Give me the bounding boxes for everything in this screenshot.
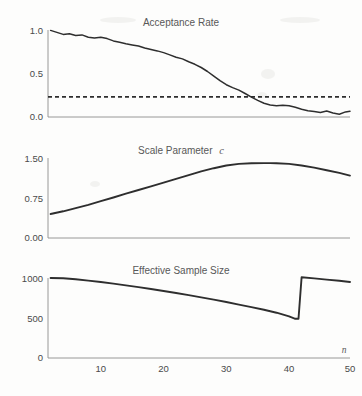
three-panel-chart: Acceptance Rate 1.0 0.5 0.0 Scale Parame… [0,0,362,396]
ytick-panel2-0: 0.00 [25,232,44,243]
ytick-panel1-0: 0.0 [30,111,43,122]
x-axis-label-n: n [342,345,347,355]
panel-title-effective-sample-size: Effective Sample Size [132,265,230,276]
ytick-panel3-2: 1000 [22,273,43,284]
xtick-40: 40 [284,363,295,374]
xtick-30: 30 [221,363,232,374]
ytick-panel3-0: 0 [38,352,43,363]
figure-background [0,0,362,396]
ytick-panel2-1: 0.75 [25,193,44,204]
panel-title-scale-main: Scale Parameter [138,145,213,156]
ytick-panel1-1: 0.5 [30,68,43,79]
ytick-panel3-1: 500 [27,313,43,324]
panel-title-acceptance-rate: Acceptance Rate [143,17,220,28]
figure-container: Acceptance Rate 1.0 0.5 0.0 Scale Parame… [0,0,362,396]
panel-title-scale-parameter: Scale Parameter c [138,145,224,156]
ytick-panel2-2: 1.50 [25,153,44,164]
xtick-20: 20 [158,363,169,374]
xtick-10: 10 [96,363,107,374]
xtick-50: 50 [345,363,356,374]
ytick-panel1-2: 1.0 [30,25,43,36]
panel-title-scale-italic-c: c [219,145,224,156]
